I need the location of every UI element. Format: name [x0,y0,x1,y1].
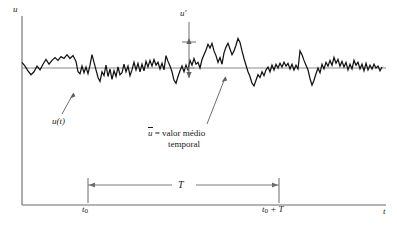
signal-curve [22,39,382,87]
t0-label: t0 [82,205,88,215]
signal-label: u(t) [52,117,65,126]
turbulent-signal-diagram [0,0,397,229]
mean-leader-line [207,76,227,124]
mean-label-text: = valor médio [155,128,206,138]
mean-label-text2: temporal [148,139,200,149]
interval-label: T [178,180,184,190]
t0T-rest: + T [268,204,284,214]
x-axis-label: t [383,207,386,216]
mean-symbol: u [148,128,153,138]
mean-symbol-overbar: u [148,128,153,139]
t0-subscript: 0 [85,207,89,215]
y-axis-label: u [13,5,18,14]
t0-plus-T-label: t0 + T [262,205,284,215]
signal-leader-line [62,93,75,115]
mean-value-label: u = valor médio temporal [148,128,205,150]
fluctuation-label: u′ [180,9,186,18]
